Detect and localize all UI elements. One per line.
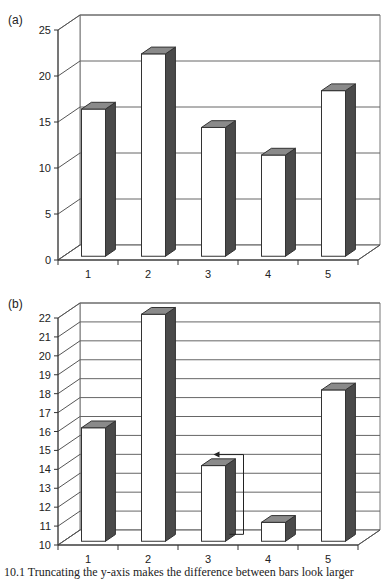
bar xyxy=(322,84,356,256)
svg-text:3: 3 xyxy=(205,268,211,280)
svg-text:15: 15 xyxy=(39,444,51,456)
svg-text:4: 4 xyxy=(265,553,271,565)
bar xyxy=(202,121,236,257)
bar xyxy=(142,308,176,542)
svg-text:12: 12 xyxy=(39,501,51,513)
figure-caption: 10.1 Truncating the y-axis makes the dif… xyxy=(4,565,354,580)
svg-text:1: 1 xyxy=(85,268,91,280)
svg-text:2: 2 xyxy=(145,553,151,565)
chart-b: 1011121314151617181920212212345 xyxy=(39,303,380,565)
svg-text:2: 2 xyxy=(145,268,151,280)
svg-text:19: 19 xyxy=(39,369,51,381)
bar xyxy=(322,383,356,541)
svg-text:5: 5 xyxy=(325,553,331,565)
bar xyxy=(202,459,236,541)
svg-text:25: 25 xyxy=(39,24,51,36)
svg-text:14: 14 xyxy=(39,463,51,475)
svg-text:16: 16 xyxy=(39,426,51,438)
bar xyxy=(262,516,296,542)
svg-text:0: 0 xyxy=(45,254,51,266)
svg-text:20: 20 xyxy=(39,70,51,82)
svg-text:15: 15 xyxy=(39,116,51,128)
svg-text:17: 17 xyxy=(39,407,51,419)
svg-text:4: 4 xyxy=(265,268,271,280)
svg-text:5: 5 xyxy=(45,208,51,220)
svg-text:21: 21 xyxy=(39,331,51,343)
svg-text:3: 3 xyxy=(205,553,211,565)
svg-text:11: 11 xyxy=(40,520,51,532)
svg-text:20: 20 xyxy=(39,350,51,362)
bar xyxy=(82,421,116,541)
svg-text:22: 22 xyxy=(39,312,51,324)
svg-text:1: 1 xyxy=(85,553,91,565)
svg-text:5: 5 xyxy=(325,268,331,280)
chart-a: 051015202512345 xyxy=(39,15,380,280)
bar xyxy=(262,148,296,256)
svg-text:10: 10 xyxy=(39,162,51,174)
svg-text:13: 13 xyxy=(39,482,51,494)
svg-text:18: 18 xyxy=(39,388,51,400)
bar xyxy=(142,47,176,256)
bar xyxy=(82,102,116,256)
svg-text:10: 10 xyxy=(39,539,51,551)
